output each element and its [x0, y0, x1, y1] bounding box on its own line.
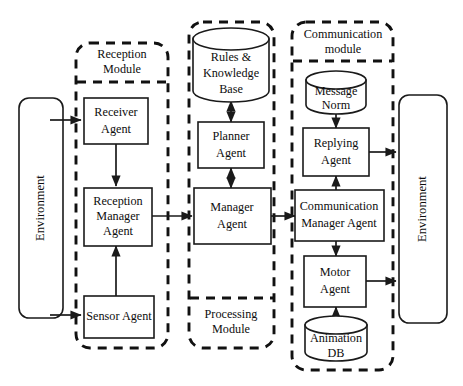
processing-module-label-line2: Module [212, 322, 250, 336]
communication-module-label-line2: module [325, 42, 362, 56]
rules-knowledge-base-label-line2: Knowledge [203, 66, 259, 80]
reception-module-label-line2: Module [103, 62, 141, 76]
receiver-agent-label-line1: Receiver [94, 105, 137, 119]
reception-manager-agent-label-line2: Manager [96, 209, 139, 223]
replying-agent-label-line2: Agent [321, 153, 351, 167]
sensor-agent-label: Sensor Agent [86, 309, 152, 323]
communication-manager-agent-label-line2: Manager Agent [301, 216, 377, 230]
message-norm-label-line1: Message [315, 84, 358, 98]
communication-manager-agent-label-line1: Communication [300, 199, 379, 213]
environment-left-label: Environment [33, 175, 47, 241]
node-animation-db: Animation DB [305, 316, 367, 361]
node-rules-knowledge-base: Rules & Knowledge Base [193, 28, 269, 102]
reception-manager-agent-label-line1: Reception [93, 194, 142, 208]
environment-right: Environment [399, 95, 447, 323]
node-communication-manager-agent: Communication Manager Agent [295, 190, 384, 241]
motor-agent-label-line2: Agent [320, 282, 350, 296]
communication-module-label-line1: Communication [304, 27, 383, 41]
planner-agent-label-line2: Agent [216, 146, 246, 160]
processing-module-label-line1: Processing [205, 307, 258, 321]
node-receiver-agent: Receiver Agent [84, 98, 148, 144]
replying-agent-label-line1: Replying [314, 136, 359, 150]
message-norm-label-line2: Norm [322, 98, 351, 112]
environment-right-label: Environment [415, 176, 429, 242]
node-message-norm: Message Norm [306, 71, 366, 114]
node-motor-agent: Motor Agent [304, 256, 366, 307]
reception-manager-agent-label-line3: Agent [103, 224, 133, 238]
diagram-canvas: Reception Module Processing Module Commu… [0, 0, 463, 386]
planner-agent-label-line1: Planner [212, 129, 249, 143]
node-manager-agent: Manager Agent [194, 188, 271, 244]
node-reception-manager-agent: Reception Manager Agent [84, 188, 152, 246]
rules-knowledge-base-label-line1: Rules & [211, 50, 252, 64]
animation-db-label-line2: DB [328, 346, 345, 360]
receiver-agent-label-line2: Agent [101, 122, 131, 136]
node-sensor-agent: Sensor Agent [84, 296, 154, 338]
animation-db-label-line1: Animation [310, 331, 362, 345]
manager-agent-label-line2: Agent [217, 217, 247, 231]
environment-left: Environment [19, 98, 63, 318]
motor-agent-label-line1: Motor [320, 265, 350, 279]
reception-module-label-line1: Reception [97, 47, 146, 61]
node-planner-agent: Planner Agent [198, 122, 264, 168]
node-replying-agent: Replying Agent [303, 128, 369, 176]
architecture-diagram: Reception Module Processing Module Commu… [0, 0, 463, 386]
rules-knowledge-base-label-line3: Base [219, 82, 243, 96]
manager-agent-label-line1: Manager [210, 200, 253, 214]
rules-knowledge-base-cylinder-top [193, 28, 269, 50]
